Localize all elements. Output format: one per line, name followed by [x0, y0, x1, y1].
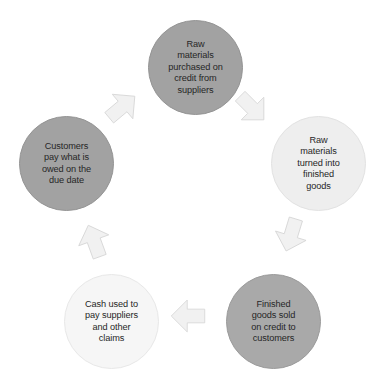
- arrow-right-to-bottom-right-icon: [267, 211, 314, 258]
- cycle-node-label: Raw materials purchased on credit from s…: [159, 39, 231, 96]
- cycle-diagram: Raw materials purchased on credit from s…: [0, 0, 379, 378]
- cycle-node-customers-pay[interactable]: Customers pay what is owed on the due da…: [19, 116, 114, 211]
- cycle-node-raw-materials-purchased[interactable]: Raw materials purchased on credit from s…: [148, 20, 243, 115]
- cycle-node-label: Raw materials turned into finished goods: [288, 135, 348, 192]
- cycle-node-finished-goods-sold[interactable]: Finished goods sold on credit to custome…: [226, 274, 321, 369]
- cycle-node-cash-used-to-pay[interactable]: Cash used to pay suppliers and other cla…: [64, 274, 159, 369]
- arrow-bottom-right-to-bottom-left-icon: [169, 297, 207, 335]
- cycle-node-label: Cash used to pay suppliers and other cla…: [76, 299, 147, 345]
- arrow-bottom-left-to-left-icon: [70, 217, 119, 266]
- cycle-node-raw-materials-turned[interactable]: Raw materials turned into finished goods: [271, 116, 366, 211]
- cycle-node-label: Finished goods sold on credit to custome…: [242, 299, 304, 345]
- cycle-node-label: Customers pay what is owed on the due da…: [33, 141, 100, 187]
- arrow-left-to-top-icon: [95, 80, 149, 134]
